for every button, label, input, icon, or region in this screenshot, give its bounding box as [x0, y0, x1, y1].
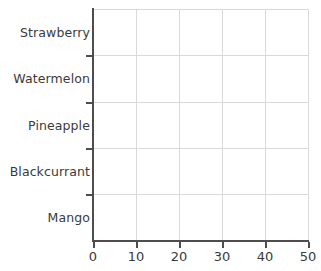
x-tick-label-10: 10 — [128, 249, 145, 264]
y-tick-3 — [86, 194, 93, 196]
plot-area — [93, 9, 308, 241]
x-tick-1 — [136, 242, 138, 248]
y-tick-label-mango: Mango — [48, 210, 90, 225]
y-tick-2 — [86, 148, 93, 150]
gridline-vertical-3 — [222, 9, 223, 241]
chart-title — [93, 0, 308, 2]
x-axis-spine — [93, 240, 309, 242]
x-tick-4 — [265, 242, 267, 248]
x-tick-label-0: 0 — [89, 249, 97, 264]
gridline-vertical-5 — [308, 9, 309, 241]
y-tick-label-pineapple: Pineapple — [28, 118, 90, 133]
gridline-horizontal-3 — [93, 148, 308, 149]
x-tick-label-20: 20 — [171, 249, 188, 264]
x-tick-label-50: 50 — [300, 249, 317, 264]
x-tick-2 — [179, 242, 181, 248]
x-tick-3 — [222, 242, 224, 248]
y-tick-label-watermelon: Watermelon — [13, 71, 90, 86]
gridline-horizontal-4 — [93, 194, 308, 195]
gridline-vertical-2 — [179, 9, 180, 241]
gridline-horizontal-1 — [93, 55, 308, 56]
y-tick-0 — [86, 55, 93, 57]
gridline-vertical-4 — [265, 9, 266, 241]
x-tick-0 — [93, 242, 95, 248]
y-tick-label-blackcurrant: Blackcurrant — [10, 164, 90, 179]
y-tick-1 — [86, 102, 93, 104]
x-tick-5 — [308, 242, 310, 248]
y-tick-label-strawberry: Strawberry — [20, 25, 90, 40]
gridline-horizontal-0 — [93, 9, 308, 10]
gridline-vertical-1 — [136, 9, 137, 241]
x-tick-label-40: 40 — [257, 249, 274, 264]
gridline-horizontal-2 — [93, 102, 308, 103]
bar-chart-figure: StrawberryWatermelonPineappleBlackcurran… — [0, 0, 321, 271]
x-tick-label-30: 30 — [214, 249, 231, 264]
y-axis-spine — [92, 8, 94, 242]
